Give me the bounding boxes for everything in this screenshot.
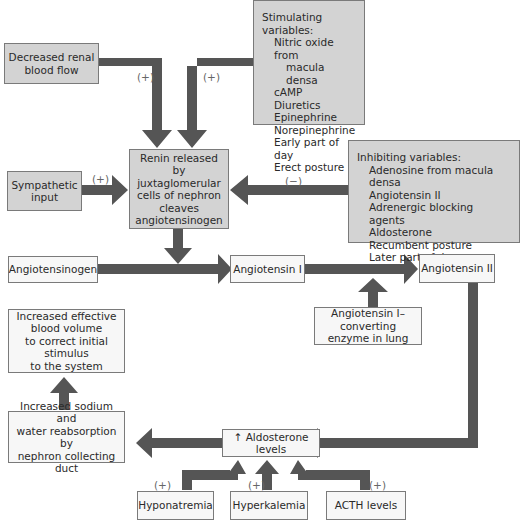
node-angiotensin-2: Angiotensin II — [419, 254, 495, 283]
node-aldosterone-levels: ↑ Aldosterone levels — [222, 429, 320, 457]
arrow-renin-down — [164, 228, 192, 264]
node-sympathetic-input: Sympathetic input — [7, 171, 82, 211]
node-increased-sodium-reabsorption: Increased sodium and water reabsorption … — [8, 411, 125, 463]
plus-label: (+) — [369, 479, 386, 491]
inhibiting-item: Aldosterone — [357, 226, 511, 239]
arrow-hyponatremia — [182, 460, 246, 490]
stimulating-item: Erect posture — [262, 161, 356, 174]
inhibiting-item: Adrenergic blocking agents — [357, 201, 511, 226]
node-acth-levels: ACTH levels — [326, 491, 406, 520]
stimulating-item: Epinephrine — [262, 111, 356, 124]
node-angiotensin-converting-enzyme: Angiotensin I–converting enzyme in lung — [314, 307, 422, 345]
inhibiting-item: Recumbent posture — [357, 239, 511, 252]
stimulating-item: cAMP — [262, 86, 356, 99]
node-hyperkalemia: Hyperkalemia — [230, 491, 308, 520]
arrow-ace — [358, 278, 388, 308]
node-angiotensin-1: Angiotensin I — [230, 255, 305, 283]
node-increased-blood-volume: Increased effective blood volume to corr… — [8, 309, 125, 373]
node-decreased-renal-blood-flow: Decreased renal blood flow — [4, 43, 99, 84]
plus-label: (+) — [92, 173, 109, 185]
arrow-aldosterone — [136, 428, 224, 458]
stimulating-item: Early part of day — [262, 136, 356, 161]
node-stimulating-variables: Stimulating variables: Nitric oxide from… — [253, 0, 365, 125]
stimulating-item: macula densa — [262, 61, 356, 86]
node-hyponatremia: Hyponatremia — [137, 491, 214, 520]
arrow-angiotensinogen — [97, 254, 232, 284]
minus-label: (−) — [285, 175, 302, 187]
arrow-renal-flow — [98, 58, 172, 148]
stimulating-heading: Stimulating variables: — [262, 11, 356, 36]
node-inhibiting-variables: Inhibiting variables: Adenosine from mac… — [348, 140, 520, 243]
stimulating-item: Norepinephrine — [262, 124, 356, 137]
inhibiting-item: Angiotensin II — [357, 189, 511, 202]
stimulating-item: Nitric oxide from — [262, 36, 356, 61]
node-renin-released: Renin released by juxtaglomerular cells … — [129, 149, 229, 229]
plus-label: (+) — [203, 71, 220, 83]
plus-label: (+) — [137, 71, 154, 83]
node-angiotensinogen: Angiotensinogen — [8, 256, 98, 283]
arrow-acth — [290, 460, 370, 490]
stimulating-item: Diuretics — [262, 99, 356, 112]
inhibiting-item: Adenosine from macula densa — [357, 164, 511, 189]
plus-label: (+) — [154, 479, 171, 491]
plus-label: (+) — [248, 479, 265, 491]
inhibiting-heading: Inhibiting variables: — [357, 151, 511, 164]
